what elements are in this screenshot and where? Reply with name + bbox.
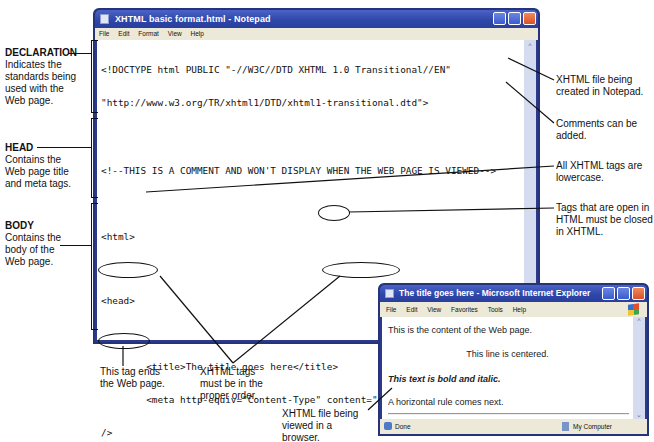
connector-lines [0, 0, 654, 442]
